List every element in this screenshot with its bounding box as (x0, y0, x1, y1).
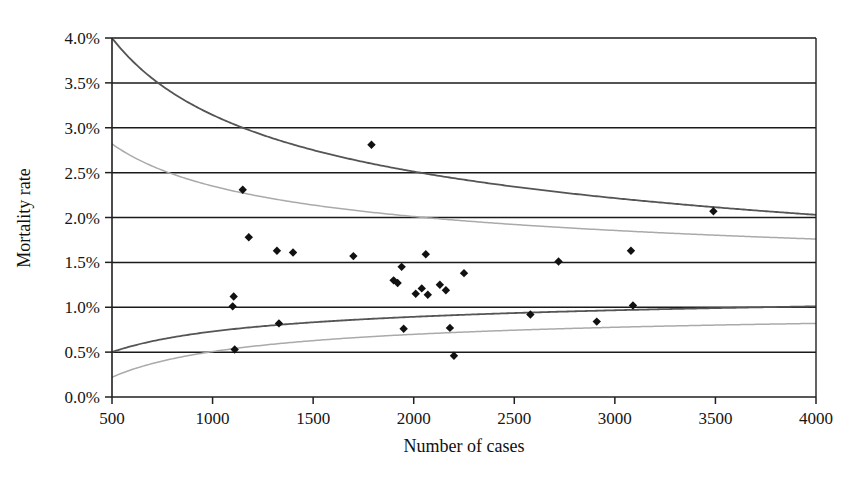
chart-canvas: 0.0%0.5%1.0%1.5%2.0%2.5%3.0%3.5%4.0% 500… (0, 0, 864, 477)
x-tick-label: 4000 (799, 409, 833, 428)
y-axis-ticks: 0.0%0.5%1.0%1.5%2.0%2.5%3.0%3.5%4.0% (65, 29, 112, 407)
x-tick-label: 2500 (497, 409, 531, 428)
x-axis-ticks: 5001000150020002500300035004000 (99, 397, 833, 428)
y-tick-label: 4.0% (65, 29, 100, 48)
x-tick-label: 500 (99, 409, 125, 428)
x-tick-label: 2000 (397, 409, 431, 428)
y-tick-label: 3.5% (65, 74, 100, 93)
y-axis-title: Mortality rate (14, 168, 34, 267)
y-tick-label: 2.5% (65, 164, 100, 183)
y-tick-label: 3.0% (65, 119, 100, 138)
x-tick-label: 1500 (296, 409, 330, 428)
x-tick-label: 3000 (598, 409, 632, 428)
funnel-plot-figure: 0.0%0.5%1.0%1.5%2.0%2.5%3.0%3.5%4.0% 500… (0, 0, 864, 477)
x-axis-title: Number of cases (404, 436, 525, 456)
y-tick-label: 2.0% (65, 209, 100, 228)
y-tick-label: 0.0% (65, 388, 100, 407)
y-tick-label: 1.5% (65, 253, 100, 272)
y-tick-label: 0.5% (65, 343, 100, 362)
x-tick-label: 1000 (196, 409, 230, 428)
x-tick-label: 3500 (698, 409, 732, 428)
y-tick-label: 1.0% (65, 298, 100, 317)
